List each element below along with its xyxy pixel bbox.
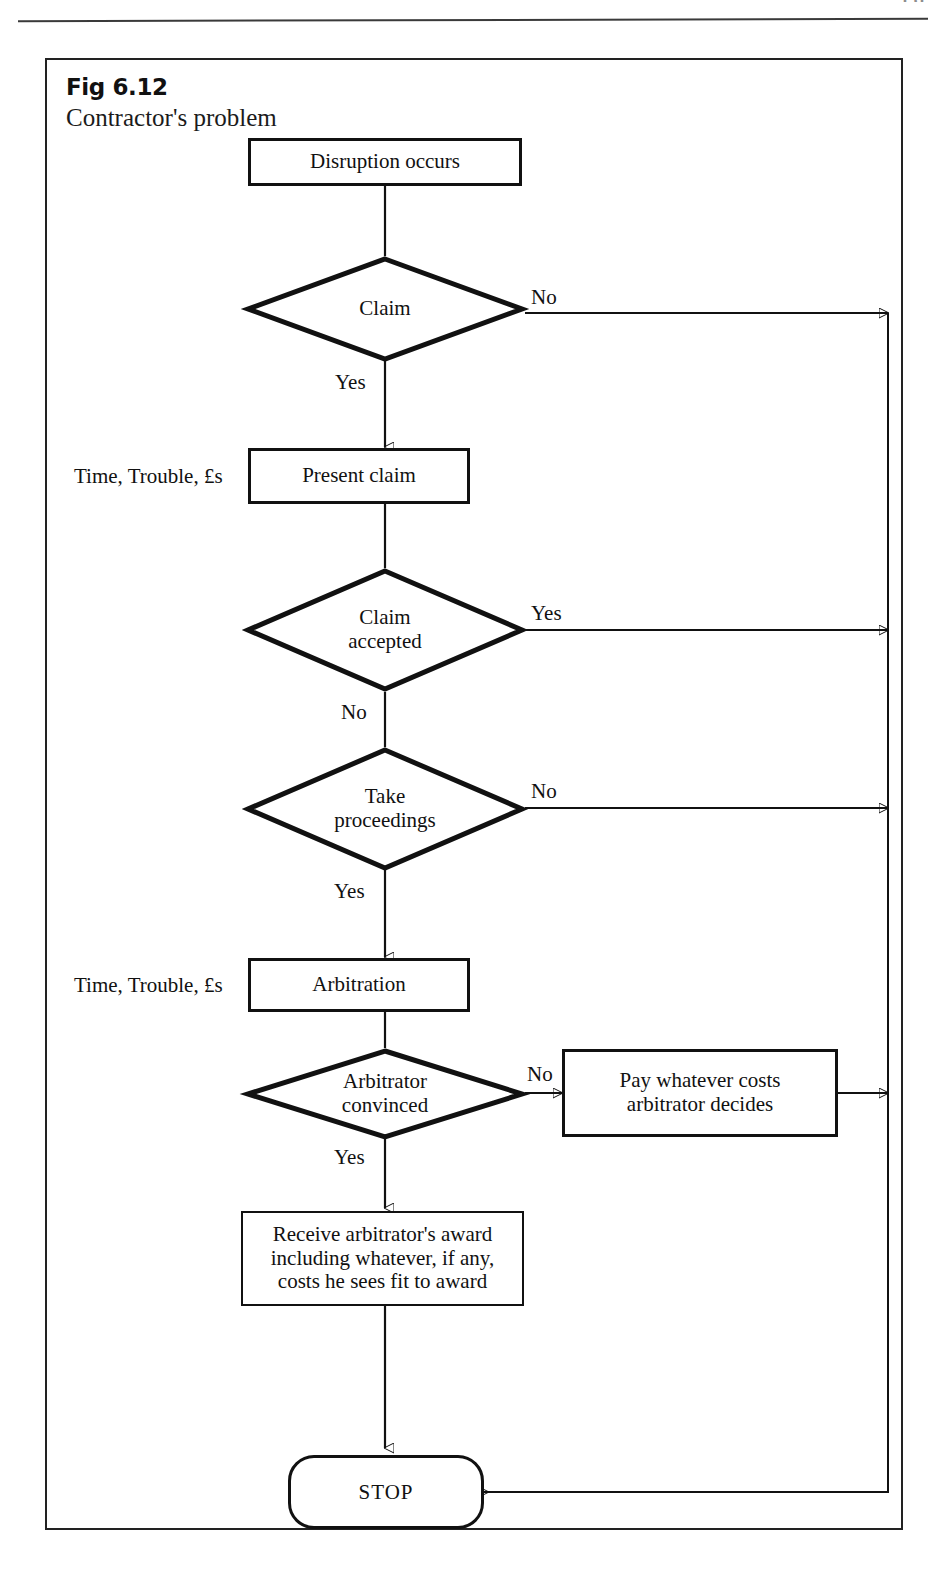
edge-label-proceedings-no: No: [531, 779, 557, 804]
figure-number: Fig 6.12: [66, 74, 168, 100]
node-label: Disruption occurs: [310, 150, 460, 174]
header-rule: [18, 18, 928, 22]
diamond-shape: [245, 747, 525, 871]
edge-label-accepted-no: No: [341, 700, 367, 725]
node-claim-decision[interactable]: Claim: [245, 256, 525, 362]
edge-label-proceedings-yes: Yes: [334, 879, 365, 904]
node-receive-award[interactable]: Receive arbitrator's award including wha…: [241, 1211, 524, 1306]
node-claim-accepted-decision[interactable]: Claim accepted: [245, 568, 525, 692]
node-label: Receive arbitrator's award including wha…: [271, 1223, 494, 1294]
node-label: Pay whatever costs arbitrator decides: [620, 1069, 781, 1116]
node-arbitration[interactable]: Arbitration: [248, 958, 470, 1012]
node-disruption-occurs[interactable]: Disruption occurs: [248, 138, 522, 186]
diamond-shape: [245, 568, 525, 692]
diamond-shape: [245, 256, 525, 362]
side-label-present-claim: Time, Trouble, £s: [74, 464, 223, 489]
edge-label-arbitrator-yes: Yes: [334, 1145, 365, 1170]
edge-label-claim-yes: Yes: [335, 370, 366, 395]
figure-caption: Contractor's problem: [66, 104, 277, 132]
edge-label-accepted-yes: Yes: [531, 601, 562, 626]
node-pay-costs[interactable]: Pay whatever costs arbitrator decides: [562, 1049, 838, 1137]
side-label-arbitration: Time, Trouble, £s: [74, 973, 223, 998]
node-present-claim[interactable]: Present claim: [248, 448, 470, 504]
edge-label-claim-no: No: [531, 285, 557, 310]
diamond-shape: [245, 1048, 525, 1140]
edge-label-arbitrator-no: No: [527, 1062, 553, 1087]
node-label: Arbitration: [312, 973, 405, 997]
node-label: Present claim: [302, 464, 416, 488]
node-stop[interactable]: STOP: [288, 1455, 484, 1529]
page-header: 151: [0, 0, 948, 30]
node-arbitrator-convinced-decision[interactable]: Arbitrator convinced: [245, 1048, 525, 1140]
node-label: STOP: [359, 1480, 414, 1505]
page-number: 151: [901, 0, 927, 2]
node-take-proceedings-decision[interactable]: Take proceedings: [245, 747, 525, 871]
